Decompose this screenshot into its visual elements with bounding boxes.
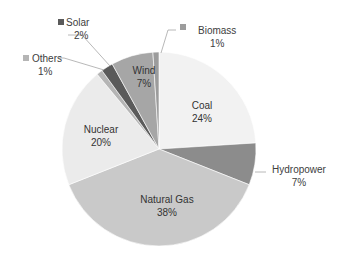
pie-chart	[0, 0, 337, 259]
label-hydropower-name: Hydropower	[272, 164, 326, 175]
label-wind: Wind 7%	[128, 64, 160, 90]
label-wind-name: Wind	[133, 65, 156, 76]
label-others: Others 1%	[32, 52, 62, 78]
leader-line-biomass	[161, 30, 176, 53]
label-nuclear-name: Nuclear	[84, 124, 118, 135]
legend-key-solar	[58, 19, 64, 25]
label-biomass-pct: 1%	[210, 38, 224, 49]
label-natural-gas-name: Natural Gas	[140, 194, 193, 205]
legend-key-biomass	[180, 24, 186, 30]
legend-key-others	[23, 55, 29, 61]
label-nuclear: Nuclear 20%	[76, 123, 126, 149]
label-natural-gas: Natural Gas 38%	[132, 193, 202, 219]
label-wind-pct: 7%	[137, 78, 151, 89]
label-hydropower-pct: 7%	[292, 177, 306, 188]
leader-line-others	[58, 58, 104, 70]
label-others-name: Others	[32, 53, 62, 64]
label-others-pct: 1%	[38, 66, 52, 77]
label-solar-pct: 2%	[74, 30, 88, 41]
label-biomass-name: Biomass	[198, 25, 236, 36]
label-hydropower: Hydropower 7%	[266, 163, 332, 189]
label-nuclear-pct: 20%	[91, 137, 111, 148]
label-biomass: Biomass 1%	[198, 24, 236, 50]
label-solar-name: Solar	[66, 17, 89, 28]
label-coal-name: Coal	[192, 100, 213, 111]
label-coal-pct: 24%	[192, 113, 212, 124]
label-natural-gas-pct: 38%	[157, 207, 177, 218]
label-solar: Solar 2%	[66, 16, 89, 42]
label-coal: Coal 24%	[182, 99, 222, 125]
